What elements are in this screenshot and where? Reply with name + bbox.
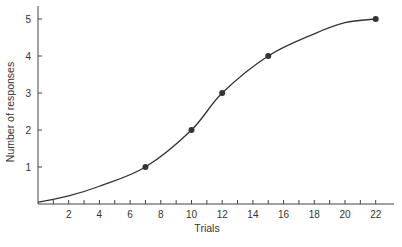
data-point — [142, 164, 148, 170]
x-tick-label: 16 — [278, 209, 290, 220]
y-axis-label: Number of responses — [4, 62, 16, 162]
data-point — [373, 16, 379, 22]
axes: 24681012141618202212345 — [25, 6, 394, 220]
data-point — [265, 53, 271, 59]
chart: 24681012141618202212345 Trials Number of… — [0, 0, 402, 247]
y-tick-label: 4 — [25, 51, 31, 62]
data-points — [142, 16, 378, 170]
x-tick-label: 10 — [186, 209, 198, 220]
x-tick-label: 22 — [370, 209, 382, 220]
x-tick-label: 8 — [158, 209, 164, 220]
y-tick-label: 2 — [25, 125, 31, 136]
x-axis-label: Trials — [194, 222, 219, 234]
x-tick-label: 18 — [309, 209, 321, 220]
y-tick-label: 5 — [25, 14, 31, 25]
data-point — [189, 127, 195, 133]
response-curve — [38, 19, 376, 202]
x-tick-label: 20 — [339, 209, 351, 220]
x-tick-label: 6 — [127, 209, 133, 220]
data-point — [219, 90, 225, 96]
curve — [38, 19, 376, 202]
y-tick-label: 1 — [25, 162, 31, 173]
y-tick-label: 3 — [25, 88, 31, 99]
x-tick-label: 12 — [217, 209, 229, 220]
x-tick-label: 14 — [247, 209, 259, 220]
x-tick-label: 2 — [66, 209, 72, 220]
x-tick-label: 4 — [97, 209, 103, 220]
